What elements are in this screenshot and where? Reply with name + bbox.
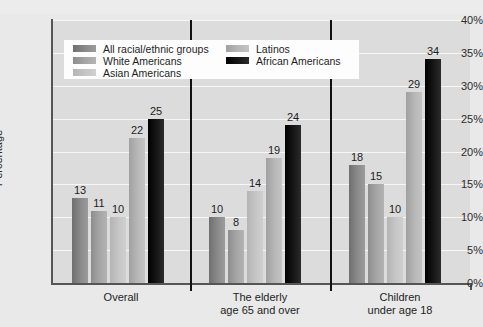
legend-label: Asian Americans: [103, 68, 181, 79]
legend-swatch-icon: [73, 57, 96, 64]
gridline: [53, 20, 470, 21]
y-axis-tick-label: 0%: [437, 278, 483, 289]
y-axis-title: Percentage: [0, 130, 4, 186]
bar: 22: [129, 138, 145, 283]
legend-label: All racial/ethnic groups: [103, 44, 209, 55]
bar-value-label: 22: [131, 125, 143, 136]
bar-value-label: 10: [112, 204, 124, 215]
bar-value-label: 25: [150, 106, 162, 117]
x-axis-category-label: Overall: [41, 291, 201, 304]
bar-value-label: 15: [370, 171, 382, 182]
legend-entry: White Americans: [73, 55, 209, 67]
bar-value-label: 14: [249, 178, 261, 189]
bar-value-label: 24: [287, 112, 299, 123]
bar-value-label: 29: [408, 79, 420, 90]
legend-swatch-icon: [226, 45, 249, 52]
bar-value-label: 19: [268, 145, 280, 156]
y-axis-tick-label: 25%: [437, 113, 483, 124]
y-axis-tick-label: 15%: [437, 179, 483, 190]
bar: 11: [91, 211, 107, 283]
y-axis-tick-label: 30%: [437, 80, 483, 91]
y-axis-tick-label: 5%: [437, 245, 483, 256]
legend-swatch-icon: [73, 45, 96, 52]
legend-column-right: LatinosAfrican Americans: [226, 43, 341, 67]
legend-entry: African Americans: [226, 55, 341, 67]
bar: 25: [148, 119, 164, 283]
bar-value-label: 11: [93, 198, 104, 209]
bar-chart-figure: 13111022251081419241815102934 0%5%10%15%…: [0, 0, 483, 327]
bar: 10: [387, 217, 403, 283]
bar: 19: [266, 158, 282, 283]
bar-value-label: 8: [233, 217, 239, 228]
legend-label: Latinos: [256, 44, 290, 55]
bar-value-label: 13: [74, 185, 86, 196]
bar: 14: [247, 191, 263, 283]
x-axis-category-label: The elderly age 65 and over: [180, 291, 340, 317]
legend-entry: All racial/ethnic groups: [73, 43, 209, 55]
y-axis-tick-label: 40%: [437, 15, 483, 26]
bar: 15: [368, 184, 384, 283]
legend-swatch-icon: [73, 69, 96, 76]
bar-value-label: 18: [351, 152, 363, 163]
legend-swatch-icon: [226, 57, 249, 64]
bar: 18: [349, 165, 365, 283]
bar: 24: [285, 125, 301, 283]
chart-legend: All racial/ethnic groupsWhite AmericansA…: [64, 40, 359, 79]
legend-label: African Americans: [256, 56, 341, 67]
legend-entry: Asian Americans: [73, 67, 209, 79]
bar: 29: [406, 92, 422, 283]
legend-label: White Americans: [103, 56, 182, 67]
bar-value-label: 10: [389, 204, 401, 215]
x-axis-category-label: Children under age 18: [320, 291, 480, 317]
bar: 13: [72, 198, 88, 283]
y-axis-line: [51, 19, 53, 284]
bar: 8: [228, 230, 244, 283]
y-axis-tick-label: 35%: [437, 47, 483, 58]
bar: 10: [110, 217, 126, 283]
legend-column-left: All racial/ethnic groupsWhite AmericansA…: [73, 43, 209, 79]
legend-entry: Latinos: [226, 43, 341, 55]
bar: 10: [209, 217, 225, 283]
y-axis-tick-label: 20%: [437, 146, 483, 157]
scan-artifact: [0, 0, 483, 14]
x-axis-line: [51, 283, 471, 285]
bar-value-label: 10: [211, 204, 223, 215]
y-axis-tick-label: 10%: [437, 212, 483, 223]
